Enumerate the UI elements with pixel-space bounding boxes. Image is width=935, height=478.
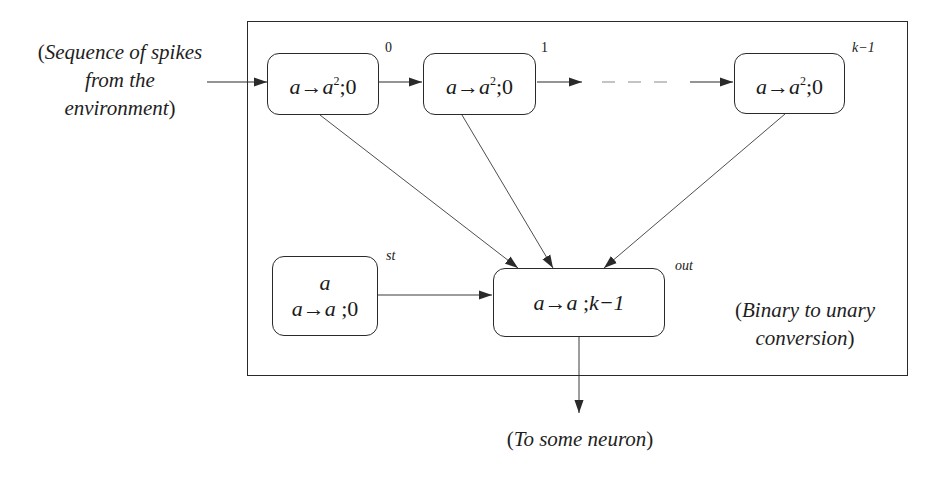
module-annotation-line2: conversion) [725, 324, 885, 352]
neuron-0-rule: a→a2;0 [289, 68, 356, 100]
neuron-st-rule: a→a ;0 [292, 296, 359, 322]
neuron-k-1: a→a2;0 [734, 53, 845, 114]
input-annotation-line2: from the [22, 66, 218, 94]
neuron-k-1-label: k−1 [852, 40, 875, 56]
neuron-st-label: st [386, 248, 395, 264]
output-annotation: (To some neuron) [490, 425, 670, 453]
input-annotation: (Sequence of spikes from the environment… [22, 38, 218, 122]
neuron-1-rule: a→a2;0 [446, 68, 513, 100]
input-annotation-line3: environment) [22, 94, 218, 122]
neuron-k-1-rule: a→a2;0 [756, 68, 823, 100]
neuron-out: a→a ;k−1 [493, 268, 665, 337]
neuron-st-initial-spikes: a [320, 270, 331, 296]
neuron-1-label: 1 [541, 40, 548, 56]
snp-binary-to-unary-diagram: (Sequence of spikes from the environment… [0, 0, 935, 478]
neuron-0: a→a2;0 [267, 53, 379, 115]
module-annotation: (Binary to unary conversion) [725, 296, 885, 352]
input-annotation-line1: (Sequence of spikes [22, 38, 218, 66]
neuron-1: a→a2;0 [423, 53, 536, 115]
neuron-0-label: 0 [385, 40, 392, 56]
neuron-out-rule: a→a ;k−1 [533, 290, 624, 316]
module-annotation-line1: (Binary to unary [725, 296, 885, 324]
neuron-out-label: out [675, 258, 693, 274]
neuron-st: a a→a ;0 [272, 256, 378, 336]
